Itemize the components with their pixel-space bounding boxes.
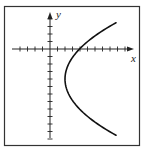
chart-frame <box>5 7 140 146</box>
parabola-chart: x y <box>0 0 144 150</box>
y-axis-label: y <box>55 8 61 20</box>
x-axis-label: x <box>130 52 136 64</box>
